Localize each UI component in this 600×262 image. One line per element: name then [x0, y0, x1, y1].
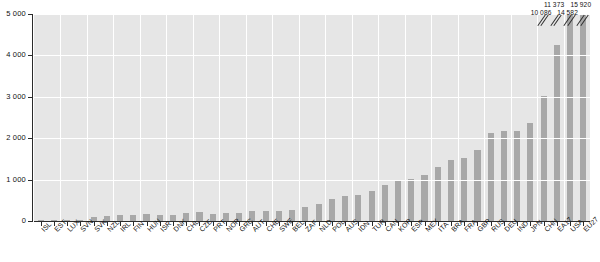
bar-eu27 [580, 14, 586, 221]
gridline-vertical [405, 14, 406, 221]
value-label-chn: 10 086 [531, 9, 552, 16]
y-tick-label: 2 000 [6, 134, 26, 142]
gridline-vertical [537, 14, 538, 221]
gridline-horizontal [34, 14, 590, 15]
gridline-vertical [299, 14, 300, 221]
x-tick-mark [358, 222, 359, 226]
gridline-vertical [352, 14, 353, 221]
x-tick-mark [120, 222, 121, 226]
bar-gbr [474, 150, 480, 221]
gridline-vertical [219, 14, 220, 221]
bars-layer [34, 14, 590, 221]
x-tick-mark [133, 222, 134, 226]
x-tick-mark [583, 222, 584, 226]
plot-area [34, 14, 590, 221]
bar-rus [488, 133, 494, 221]
gridline-vertical [378, 14, 379, 221]
x-tick-mark [451, 222, 452, 226]
gridline-horizontal [34, 97, 590, 98]
y-tick-label: 1 000 [6, 176, 26, 184]
gridline-vertical [272, 14, 273, 221]
y-tick-mark [28, 14, 33, 15]
x-tick-mark [107, 222, 108, 226]
bar-deu [501, 131, 507, 221]
gridline-vertical [60, 14, 61, 221]
gridline-vertical [246, 14, 247, 221]
x-tick-mark [67, 222, 68, 226]
x-tick-mark [385, 222, 386, 226]
x-tick-mark [557, 222, 558, 226]
gridline-vertical [113, 14, 114, 221]
y-tick-mark [28, 221, 33, 222]
x-tick-mark [425, 222, 426, 226]
bar-esp [408, 179, 414, 221]
bar-nld [316, 204, 322, 221]
bar-ea17 [554, 45, 560, 221]
x-tick-mark [411, 222, 412, 226]
x-tick-mark [477, 222, 478, 226]
gridline-horizontal [34, 138, 590, 139]
bar-bra [448, 160, 454, 221]
gridline-vertical [564, 14, 565, 221]
x-tick-mark [266, 222, 267, 226]
x-tick-mark [570, 222, 571, 226]
gridline-vertical [87, 14, 88, 221]
x-tick-mark [438, 222, 439, 226]
x-tick-mark [186, 222, 187, 226]
x-tick-mark [80, 222, 81, 226]
y-tick-label: 5 000 [6, 10, 26, 18]
x-tick-mark [279, 222, 280, 226]
x-tick-mark [226, 222, 227, 226]
gridline-vertical [325, 14, 326, 221]
x-tick-mark [147, 222, 148, 226]
x-tick-mark [41, 222, 42, 226]
gridline-horizontal [34, 55, 590, 56]
gridline-vertical [431, 14, 432, 221]
bar-tur [369, 191, 375, 221]
gridline-vertical [166, 14, 167, 221]
bar-idn [355, 195, 361, 221]
bar-hun [143, 214, 149, 221]
x-tick-mark [491, 222, 492, 226]
bar-chn [541, 96, 547, 221]
x-tick-mark [517, 222, 518, 226]
value-label-ea17: 11 373 [544, 1, 564, 8]
x-tick-mark [464, 222, 465, 226]
y-tick-label: 4 000 [6, 51, 26, 59]
x-tick-mark [332, 222, 333, 226]
x-tick-mark [372, 222, 373, 226]
bar-fra [461, 158, 467, 221]
x-tick-mark [173, 222, 174, 226]
y-tick-mark [28, 55, 33, 56]
value-label-usa: 14 582 [557, 9, 578, 16]
gridline-vertical [458, 14, 459, 221]
bar-aus [342, 196, 348, 221]
bar-zaf [302, 207, 308, 221]
gridline-horizontal [34, 180, 590, 181]
bar-usa [567, 14, 573, 221]
bar-pol [329, 199, 335, 221]
y-tick-label: 0 [22, 217, 26, 225]
y-axis-line [32, 14, 33, 221]
x-tick-mark [305, 222, 306, 226]
gridline-vertical [193, 14, 194, 221]
x-tick-mark [398, 222, 399, 226]
gridline-vertical [484, 14, 485, 221]
bar-ind [514, 131, 520, 221]
gridline-vertical [511, 14, 512, 221]
bar-kor [395, 181, 401, 221]
y-tick-label: 3 000 [6, 93, 26, 101]
bar-ita [435, 167, 441, 221]
y-tick-mark [28, 138, 33, 139]
bar-can [382, 185, 388, 221]
y-axis: 01 0002 0003 0004 0005 000 [0, 0, 30, 262]
x-tick-mark [54, 222, 55, 226]
value-label-eu27: 15 920 [570, 1, 591, 8]
bar-mex [421, 175, 427, 221]
x-tick-mark [94, 222, 95, 226]
gridline-vertical [140, 14, 141, 221]
x-tick-mark [160, 222, 161, 226]
x-tick-mark [199, 222, 200, 226]
x-tick-mark [213, 222, 214, 226]
